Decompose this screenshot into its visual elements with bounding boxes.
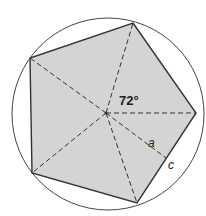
center-point bbox=[105, 112, 108, 115]
half-side-label: c bbox=[168, 158, 174, 172]
angle-label: 72° bbox=[119, 93, 139, 108]
pentagon-diagram: 72° a c bbox=[0, 0, 206, 216]
apothem-label: a bbox=[148, 136, 155, 150]
